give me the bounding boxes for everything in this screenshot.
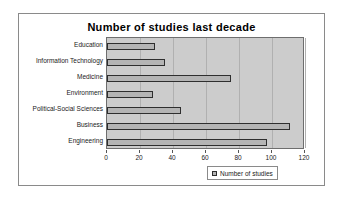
chart-legend: Number of studies (207, 166, 278, 180)
tick-mark (304, 150, 305, 153)
bar-row (107, 38, 305, 54)
bar (107, 91, 153, 98)
tick-mark (238, 150, 239, 153)
chart-frame: Number of studies last decade EducationI… (18, 13, 325, 186)
tick-mark (271, 150, 272, 153)
bar (107, 43, 155, 50)
tick-label: 80 (234, 154, 241, 161)
category-label: Business (77, 121, 103, 129)
bar-row (107, 54, 305, 70)
tick-label: 100 (266, 154, 277, 161)
chart-title: Number of studies last decade (19, 21, 324, 33)
gridline (305, 38, 306, 148)
category-label: Engineering (68, 137, 103, 145)
bar (107, 59, 165, 66)
bar (107, 123, 290, 130)
tick-mark (106, 150, 107, 153)
category-label: Political-Social Sciences (33, 105, 103, 113)
y-axis-category-labels: EducationInformation TechnologyMedicineE… (19, 37, 103, 149)
tick-label: 40 (168, 154, 175, 161)
bar-row (107, 118, 305, 134)
bar (107, 75, 231, 82)
legend-label: Number of studies (220, 170, 273, 177)
x-axis-ticks: 020406080100120 (106, 150, 304, 164)
tick-mark (172, 150, 173, 153)
tick-label: 0 (104, 154, 108, 161)
tick-label: 60 (201, 154, 208, 161)
tick-label: 20 (135, 154, 142, 161)
tick-mark (139, 150, 140, 153)
tick-mark (205, 150, 206, 153)
bar-row (107, 70, 305, 86)
category-label: Information Technology (36, 57, 103, 65)
category-label: Environment (67, 89, 104, 97)
bar-series (107, 38, 303, 148)
legend-swatch-icon (212, 171, 217, 176)
tick-label: 120 (299, 154, 310, 161)
plot-area (106, 37, 304, 149)
bar-row (107, 102, 305, 118)
bar-row (107, 86, 305, 102)
category-label: Education (74, 41, 103, 49)
category-label: Medicine (77, 73, 103, 81)
bar (107, 139, 267, 146)
bar-row (107, 134, 305, 150)
bar (107, 107, 181, 114)
